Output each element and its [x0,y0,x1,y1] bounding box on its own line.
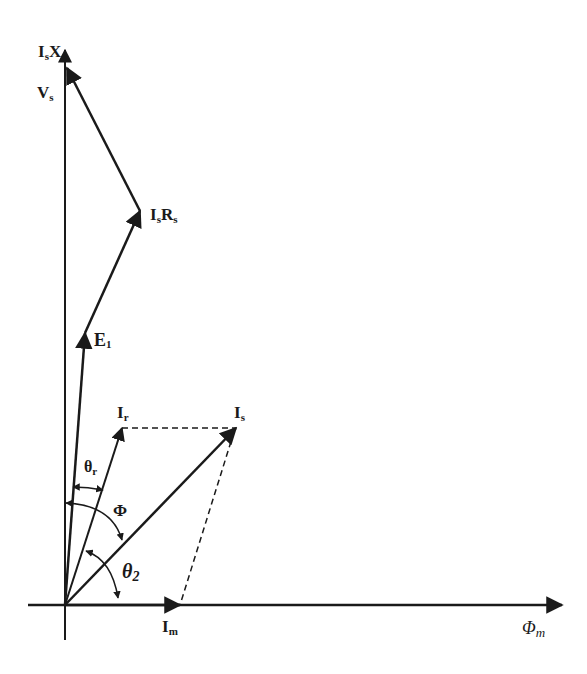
angle-theta-r-arc [73,487,103,490]
label-vs: Vs [37,83,54,103]
label-isrs: IsRs [150,205,178,225]
label-e1: E1 [94,330,112,350]
label-theta-r: θr [84,458,97,477]
angle-theta2-arc [86,551,118,598]
label-phi-m: Φm [522,618,545,640]
label-phi: Φ [113,501,127,520]
label-isxs: IsXs [38,42,66,62]
label-is: Is [234,403,246,423]
label-im: Im [162,617,178,637]
label-theta-2: θ2 [122,560,139,584]
phasor-isxs [67,68,140,211]
phasor-is [65,428,236,605]
phasor-isrs [85,211,140,333]
label-ir: Ir [117,403,129,423]
phasor-e1 [65,333,85,605]
phasor-diagram: IsXs Vs IsRs E1 Ir Is θr Φ θ2 Im Φm [0,0,587,674]
